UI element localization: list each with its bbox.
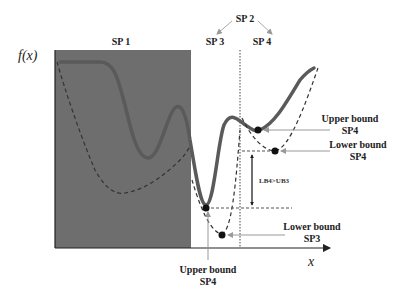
lower-bound-sp3-label-1: Lower bound [283, 221, 341, 232]
lower-bound-sp4-label-1: Lower bound [329, 139, 387, 150]
branch-and-bound-diagram: LB4>UB3 SP 1 SP 2 SP 3 SP 4 f(x) x Upper… [0, 0, 400, 301]
upper-bound-bottom-label-1: Upper bound [180, 264, 237, 275]
gap-label: LB4>UB3 [259, 177, 290, 185]
y-axis-label: f(x) [18, 48, 38, 64]
sp4-label: SP 4 [253, 36, 272, 47]
upper-bound-sp4-label-1: Upper bound [322, 113, 379, 124]
sp1-shaded-region [55, 50, 191, 248]
upper-bound-bottom-label-2: SP4 [200, 276, 217, 287]
sp2-to-sp4-arrow [258, 21, 272, 34]
lower-bound-sp4-label-2: SP4 [350, 151, 367, 162]
sp2-label: SP 2 [236, 13, 255, 24]
x-axis-label: x [307, 254, 315, 269]
point-lower-bound-sp3 [219, 232, 226, 239]
point-upper-bound-sp4 [255, 127, 262, 134]
sp3-label: SP 3 [206, 36, 225, 47]
point-upper-bound-sp3 [203, 205, 210, 212]
sp1-label: SP 1 [112, 36, 131, 47]
upper-bound-sp4-label-2: SP4 [342, 125, 359, 136]
point-lower-bound-sp4 [272, 148, 279, 155]
sp2-to-sp3-arrow [217, 21, 232, 34]
lower-bound-sp3-label-2: SP3 [304, 233, 321, 244]
